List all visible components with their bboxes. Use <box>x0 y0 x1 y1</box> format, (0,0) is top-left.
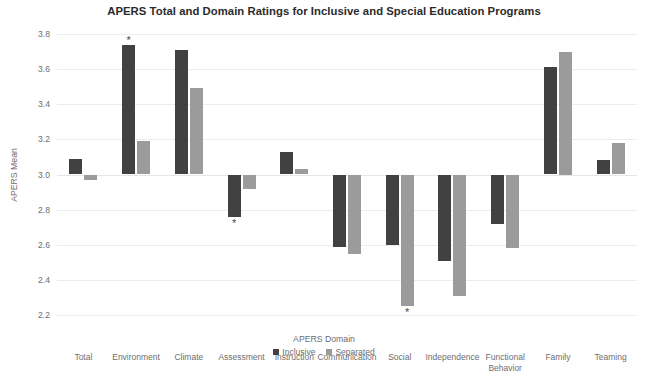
bar-communication-inclusive[interactable] <box>333 175 346 247</box>
bar-social-inclusive[interactable] <box>386 175 399 245</box>
y-axis-tick-label: 3.0 <box>38 170 50 180</box>
chart-legend: InclusiveSeparated <box>0 347 648 357</box>
significance-asterisk: * <box>405 308 409 316</box>
legend-item-inclusive[interactable]: Inclusive <box>273 347 315 357</box>
bar-functional-behavior-inclusive[interactable] <box>491 175 504 224</box>
bar-teaming-separated[interactable] <box>612 143 625 175</box>
bar-family-inclusive[interactable] <box>544 67 557 174</box>
bar-instruction-separated[interactable] <box>295 169 308 174</box>
bar-environment-separated[interactable] <box>137 141 150 174</box>
gridline <box>57 34 637 35</box>
legend-label: Separated <box>335 347 374 357</box>
gridline <box>57 175 637 176</box>
y-axis-tick-label: 3.6 <box>38 64 50 74</box>
bar-climate-inclusive[interactable] <box>175 50 188 175</box>
legend-swatch-icon <box>273 349 279 355</box>
y-axis-tick-label: 3.2 <box>38 134 50 144</box>
bar-independence-separated[interactable] <box>453 175 466 296</box>
bar-climate-separated[interactable] <box>190 88 203 174</box>
x-axis-title: APERS Domain <box>0 334 648 344</box>
gridline <box>57 245 637 246</box>
significance-asterisk: * <box>232 219 236 227</box>
bar-instruction-inclusive[interactable] <box>280 152 293 175</box>
bar-teaming-inclusive[interactable] <box>597 160 610 174</box>
plot-area: 3.83.63.43.23.02.82.62.42.2Total*Environ… <box>57 34 637 315</box>
y-axis-tick-label: 2.4 <box>38 275 50 285</box>
bar-total-separated[interactable] <box>84 175 97 180</box>
y-axis-tick-label: 3.4 <box>38 99 50 109</box>
legend-swatch-icon <box>326 349 332 355</box>
significance-asterisk: * <box>126 36 130 44</box>
chart-title: APERS Total and Domain Ratings for Inclu… <box>0 5 648 17</box>
y-axis-tick-label: 2.2 <box>38 310 50 320</box>
y-axis-tick-label: 3.8 <box>38 29 50 39</box>
y-axis-title: APERS Mean <box>9 148 19 202</box>
bar-functional-behavior-separated[interactable] <box>506 175 519 249</box>
bar-communication-separated[interactable] <box>348 175 361 255</box>
bar-assessment-separated[interactable] <box>243 175 256 189</box>
gridline <box>57 210 637 211</box>
gridline <box>57 315 637 316</box>
bar-family-separated[interactable] <box>559 52 572 175</box>
legend-label: Inclusive <box>282 347 315 357</box>
bar-environment-inclusive[interactable] <box>122 45 135 175</box>
bar-independence-inclusive[interactable] <box>438 175 451 261</box>
bar-assessment-inclusive[interactable] <box>228 175 241 217</box>
y-axis-tick-label: 2.8 <box>38 205 50 215</box>
y-axis-tick-label: 2.6 <box>38 240 50 250</box>
bar-total-inclusive[interactable] <box>69 159 82 175</box>
gridline <box>57 280 637 281</box>
legend-item-separated[interactable]: Separated <box>326 347 374 357</box>
bar-social-separated[interactable] <box>401 175 414 307</box>
